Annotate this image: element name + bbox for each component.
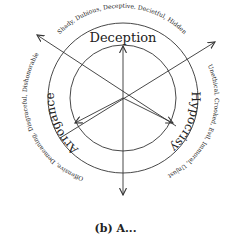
label-arrogance-text: Arrogance (43, 92, 82, 157)
arrow-lower-right (123, 98, 173, 123)
label-deception: Deception (90, 30, 158, 45)
arrow-lower-left (75, 98, 123, 123)
sin-wheel-diagram: Deception Hypocrisy Arrogance Shady, Dub… (0, 0, 231, 236)
figure-caption: (b) A... (0, 222, 231, 236)
label-arrogance: Arrogance (43, 92, 82, 157)
